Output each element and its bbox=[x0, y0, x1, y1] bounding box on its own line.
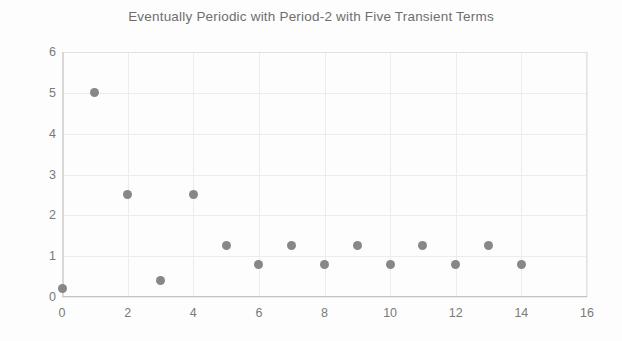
chart-container: Eventually Periodic with Period-2 with F… bbox=[0, 0, 622, 341]
gridline-horizontal bbox=[62, 297, 587, 298]
data-point bbox=[320, 260, 329, 269]
y-axis-tick-label: 1 bbox=[28, 249, 56, 263]
y-axis-tick-label: 6 bbox=[28, 45, 56, 59]
x-axis-tick-labels: 0246810121416 bbox=[62, 306, 587, 326]
y-axis-tick-label: 0 bbox=[28, 290, 56, 304]
y-axis-tick-label: 4 bbox=[28, 127, 56, 141]
x-axis-tick-label: 12 bbox=[436, 306, 476, 320]
x-axis-tick-label: 2 bbox=[108, 306, 148, 320]
y-axis-line bbox=[62, 52, 64, 297]
x-axis-tick-label: 16 bbox=[567, 306, 607, 320]
x-axis-tick-label: 0 bbox=[42, 306, 82, 320]
y-axis-tick-label: 3 bbox=[28, 168, 56, 182]
y-axis-tick-label: 2 bbox=[28, 208, 56, 222]
x-axis-tick-label: 8 bbox=[305, 306, 345, 320]
data-point bbox=[222, 241, 231, 250]
x-axis-tick-label: 6 bbox=[239, 306, 279, 320]
plot-area bbox=[62, 52, 587, 297]
y-axis-tick-labels: 0123456 bbox=[16, 52, 56, 297]
y-axis-tick-label: 5 bbox=[28, 86, 56, 100]
gridline-vertical bbox=[587, 52, 588, 297]
x-axis-tick-label: 10 bbox=[370, 306, 410, 320]
x-axis-tick-label: 4 bbox=[173, 306, 213, 320]
data-point bbox=[386, 260, 395, 269]
chart-title: Eventually Periodic with Period-2 with F… bbox=[0, 9, 622, 24]
x-axis-tick-label: 14 bbox=[501, 306, 541, 320]
x-axis-line bbox=[62, 296, 587, 298]
data-point bbox=[517, 260, 526, 269]
data-point bbox=[58, 284, 67, 293]
